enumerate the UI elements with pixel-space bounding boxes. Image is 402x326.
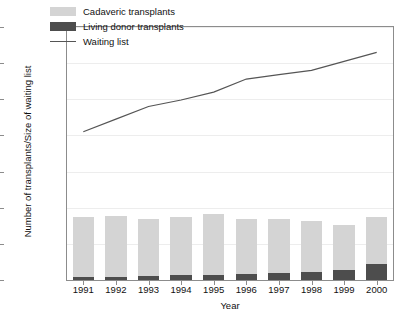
legend-label-cadaveric: Cadaveric transplants — [83, 6, 175, 17]
x-tick-mark — [344, 281, 345, 285]
legend-item-cadaveric: Cadaveric transplants — [50, 4, 184, 19]
line-marker-icon — [50, 41, 76, 42]
x-tick-label: 1992 — [99, 284, 133, 295]
plot-area — [66, 26, 394, 281]
x-tick-label: 1999 — [327, 284, 361, 295]
legend-item-waiting-list: Waiting list — [50, 34, 184, 49]
x-tick-mark — [181, 281, 182, 285]
x-tick-label: 1994 — [164, 284, 198, 295]
y-tick-mark — [0, 280, 4, 281]
chart-container: Number of transplants/Size of waiting li… — [0, 0, 402, 326]
waiting-list-line-series — [67, 27, 393, 280]
x-tick-mark — [214, 281, 215, 285]
x-tick-mark — [246, 281, 247, 285]
x-tick-label: 2000 — [360, 284, 394, 295]
y-tick-mark — [0, 63, 4, 64]
x-tick-label: 1993 — [132, 284, 166, 295]
legend-item-living-donor: Living donor transplants — [50, 19, 184, 34]
x-tick-mark — [149, 281, 150, 285]
swatch-dark-icon — [50, 22, 76, 31]
x-tick-label: 1991 — [66, 284, 100, 295]
waiting-list-line — [83, 52, 376, 132]
y-tick-mark — [0, 99, 4, 100]
x-tick-mark — [312, 281, 313, 285]
chart-legend: Cadaveric transplants Living donor trans… — [50, 4, 184, 49]
x-tick-label: 1997 — [262, 284, 296, 295]
x-tick-label: 1996 — [229, 284, 263, 295]
y-tick-mark — [0, 208, 4, 209]
y-tick-mark — [0, 244, 4, 245]
legend-label-waiting-list: Waiting list — [83, 36, 129, 47]
y-tick-mark — [0, 135, 4, 136]
x-tick-mark — [83, 281, 84, 285]
swatch-light-icon — [50, 7, 76, 16]
legend-label-living-donor: Living donor transplants — [83, 21, 184, 32]
x-tick-label: 1998 — [295, 284, 329, 295]
x-tick-mark — [279, 281, 280, 285]
x-tick-label: 1995 — [197, 284, 231, 295]
y-tick-mark — [0, 27, 4, 28]
x-tick-mark — [377, 281, 378, 285]
y-tick-mark — [0, 172, 4, 173]
x-tick-mark — [116, 281, 117, 285]
